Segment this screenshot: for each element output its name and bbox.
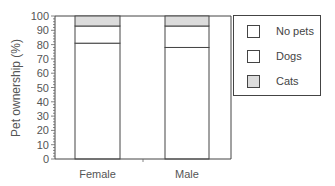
x-axis: FemaleMale — [55, 159, 231, 180]
bar-segment-no-pets — [75, 43, 120, 159]
y-tick-label: 20 — [37, 124, 49, 136]
y-axis-label: Pet ownership (%) — [9, 39, 23, 137]
y-tick-label: 30 — [37, 110, 49, 122]
y-tick-label: 90 — [37, 24, 49, 36]
bar-male — [165, 16, 209, 159]
y-tick-label: 50 — [37, 82, 49, 94]
bar-segment-dogs — [75, 26, 120, 43]
legend-swatch-dogs — [247, 50, 260, 63]
y-tick-label: 100 — [31, 10, 49, 22]
x-tick-label: Female — [79, 168, 116, 180]
bar-female — [75, 16, 120, 159]
bar-segment-cats — [165, 16, 209, 26]
legend-swatch-cats — [247, 75, 260, 88]
y-tick-label: 10 — [37, 139, 49, 151]
bar-segment-no-pets — [165, 47, 209, 159]
bar-segment-dogs — [165, 26, 209, 47]
legend-label: Dogs — [276, 50, 302, 62]
legend-label: No pets — [276, 25, 314, 37]
y-tick-label: 0 — [43, 153, 49, 165]
legend-item-no-pets: No pets — [247, 23, 314, 39]
y-tick-label: 40 — [37, 96, 49, 108]
legend-label: Cats — [276, 75, 299, 87]
y-tick-label: 60 — [37, 67, 49, 79]
x-tick-label: Male — [175, 168, 199, 180]
bars — [75, 16, 209, 159]
legend-item-dogs: Dogs — [247, 48, 302, 64]
legend-swatch-no-pets — [247, 25, 260, 38]
legend: No pets Dogs Cats — [233, 15, 321, 96]
y-tick-label: 70 — [37, 53, 49, 65]
legend-item-cats: Cats — [247, 73, 299, 89]
bar-segment-cats — [75, 16, 120, 26]
y-tick-label: 80 — [37, 39, 49, 51]
